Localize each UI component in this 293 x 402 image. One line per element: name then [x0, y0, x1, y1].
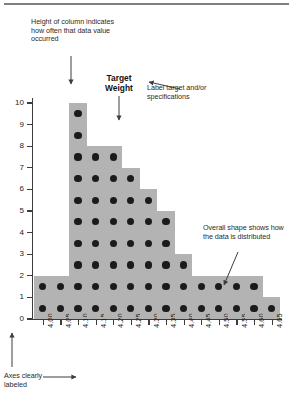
- data-point-dot: [110, 283, 117, 290]
- x-axis-tick: [236, 320, 237, 325]
- data-point-dot: [74, 305, 81, 312]
- x-axis-tick: [60, 320, 61, 325]
- data-point-dot: [74, 132, 81, 139]
- x-axis-tick: [96, 320, 97, 325]
- x-axis-tick: [43, 320, 44, 325]
- data-point-dot: [110, 197, 117, 204]
- data-point-dot: [74, 261, 81, 268]
- data-point-dot: [74, 283, 81, 290]
- data-point-dot: [198, 305, 205, 312]
- data-point-dot: [110, 175, 117, 182]
- data-point-dot: [268, 305, 275, 312]
- x-axis-tick: [254, 320, 255, 325]
- chart-bar: [87, 146, 105, 319]
- y-axis-tick-label: 5: [4, 206, 24, 215]
- y-axis-tick-label: 2: [4, 271, 24, 280]
- y-axis-tick: [27, 275, 32, 276]
- y-axis-tick-label: 8: [4, 141, 24, 150]
- y-axis-tick: [27, 297, 32, 298]
- y-axis-tick-label: 4: [4, 228, 24, 237]
- x-axis-tick: [131, 320, 132, 325]
- y-axis-tick: [27, 124, 32, 125]
- data-point-dot: [74, 240, 81, 247]
- figure-root: Height of column indicates how often tha…: [0, 0, 293, 402]
- data-point-dot: [92, 197, 99, 204]
- y-axis-tick: [27, 167, 32, 168]
- x-axis-tick: [148, 320, 149, 325]
- data-point-dot: [74, 197, 81, 204]
- data-point-dot: [145, 261, 152, 268]
- data-point-dot: [180, 261, 187, 268]
- y-axis-tick: [27, 102, 32, 103]
- x-axis-tick: [184, 320, 185, 325]
- data-point-dot: [145, 240, 152, 247]
- data-point-dot: [162, 305, 169, 312]
- data-point-dot: [92, 153, 99, 160]
- y-axis-tick: [27, 146, 32, 147]
- data-point-dot: [145, 197, 152, 204]
- data-point-dot: [92, 261, 99, 268]
- data-point-dot: [74, 110, 81, 117]
- x-axis-tick: [272, 320, 273, 325]
- y-axis-tick-label: 0: [4, 314, 24, 323]
- data-point-dot: [74, 218, 81, 225]
- x-axis-tick: [78, 320, 79, 325]
- x-axis-tick: [113, 320, 114, 325]
- data-point-dot: [198, 283, 205, 290]
- y-axis-tick-label: 3: [4, 249, 24, 258]
- x-axis-tick: [219, 320, 220, 325]
- y-axis-tick: [27, 254, 32, 255]
- data-point-dot: [92, 305, 99, 312]
- chart-plot-area: 0123456789104.004.054.104.154.204.254.30…: [0, 0, 293, 402]
- y-axis-tick: [27, 318, 32, 319]
- y-axis-tick: [27, 210, 32, 211]
- data-point-dot: [250, 283, 257, 290]
- data-point-dot: [110, 240, 117, 247]
- y-axis-tick-label: 9: [4, 120, 24, 129]
- chart-bar: [104, 146, 122, 319]
- y-axis-tick-label: 7: [4, 163, 24, 172]
- x-axis-tick: [166, 320, 167, 325]
- data-point-dot: [110, 153, 117, 160]
- data-point-dot: [162, 240, 169, 247]
- data-point-dot: [250, 305, 257, 312]
- data-point-dot: [110, 261, 117, 268]
- data-point-dot: [74, 153, 81, 160]
- x-axis-tick: [201, 320, 202, 325]
- y-axis-tick-label: 1: [4, 292, 24, 301]
- y-axis-tick: [27, 189, 32, 190]
- data-point-dot: [74, 175, 81, 182]
- data-point-dot: [162, 218, 169, 225]
- data-point-dot: [162, 261, 169, 268]
- data-point-dot: [180, 305, 187, 312]
- data-point-dot: [162, 283, 169, 290]
- data-point-dot: [57, 305, 64, 312]
- chart-bar: [140, 189, 158, 319]
- y-axis-tick: [27, 232, 32, 233]
- data-point-dot: [127, 261, 134, 268]
- y-axis-tick-label: 10: [4, 98, 24, 107]
- data-point-dot: [110, 305, 117, 312]
- x-axis-tick-label: 4.65: [275, 313, 284, 328]
- data-point-dot: [233, 305, 240, 312]
- y-axis-tick-label: 6: [4, 184, 24, 193]
- data-point-dot: [145, 305, 152, 312]
